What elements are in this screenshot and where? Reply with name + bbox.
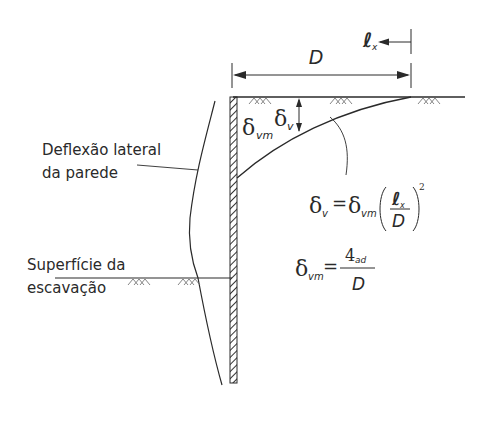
svg-text:ad: ad	[355, 255, 367, 265]
svg-text:=: =	[323, 256, 338, 277]
delta-vm-symbol: δ	[242, 115, 255, 140]
arrowhead-left-icon	[233, 71, 246, 79]
svg-text:δ: δ	[348, 193, 361, 218]
lx-symbol: ℓ	[362, 28, 372, 52]
arrowhead-up-icon	[296, 98, 302, 107]
svg-text:D: D	[352, 274, 365, 294]
soil-symbol-icon	[178, 279, 200, 285]
svg-text:2: 2	[419, 182, 425, 192]
svg-text:=: =	[332, 193, 347, 214]
svg-text:δ: δ	[295, 256, 308, 281]
soil-symbol-icon	[128, 279, 150, 285]
equation-delta-vm: δ vm = 4 ad D	[295, 246, 375, 294]
lx-subscript: x	[371, 42, 378, 52]
svg-text:v: v	[322, 208, 329, 219]
wall-deflection-label-line2: da parede	[42, 164, 118, 182]
soil-symbol-icon	[330, 98, 352, 104]
svg-text:δ: δ	[309, 193, 322, 218]
arrowhead-right-icon	[397, 71, 410, 79]
equation-leader-line	[330, 117, 347, 175]
equation-delta-v: δ v = δ vm ℓ x D 2	[309, 182, 425, 231]
arrowhead-left-icon	[378, 39, 389, 46]
soil-symbol-icon	[249, 98, 271, 104]
delta-v-symbol: δ	[274, 106, 287, 131]
deflection-leader-line	[137, 165, 198, 170]
excavation-surface-label-line2: escavação	[27, 279, 106, 297]
svg-text:D: D	[392, 211, 405, 231]
D-label: D	[309, 46, 324, 68]
diagram-canvas: D ℓ x δ vm δ v Deflexão lateral da pared…	[0, 0, 490, 439]
delta-vm-subscript: vm	[256, 129, 273, 142]
svg-text:vm: vm	[361, 208, 377, 219]
wall-deflection-label-line1: Deflexão lateral	[42, 141, 161, 159]
svg-text:4: 4	[345, 246, 355, 265]
arrowhead-down-icon	[296, 123, 302, 132]
retaining-wall	[230, 97, 237, 383]
soil-symbol-icon	[418, 98, 440, 104]
wall-deflection-curve	[189, 101, 222, 385]
delta-v-subscript: v	[287, 120, 294, 133]
excavation-surface-label-line1: Superfície da	[27, 256, 126, 274]
svg-text:vm: vm	[308, 271, 324, 282]
